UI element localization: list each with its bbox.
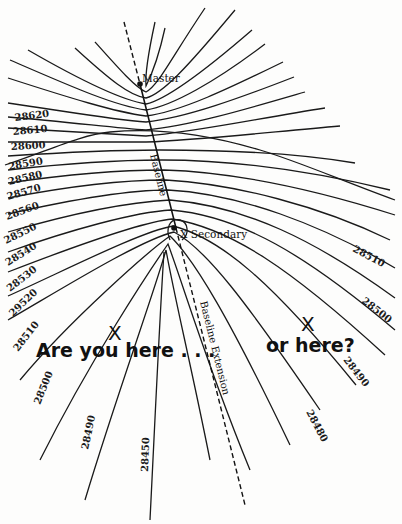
svg-text:28610: 28610 xyxy=(12,123,48,137)
svg-text:28500: 28500 xyxy=(32,369,55,405)
svg-text:28450: 28450 xyxy=(139,437,151,472)
svg-text:28560: 28560 xyxy=(4,200,40,222)
secondary-label: X Secondary xyxy=(180,228,247,240)
position-b-marker: X xyxy=(301,312,315,336)
svg-text:28480: 28480 xyxy=(304,408,330,444)
svg-text:28500: 28500 xyxy=(360,295,394,325)
position-b-text: or here? xyxy=(266,334,355,356)
position-a-text: Are you here . . . xyxy=(36,339,215,361)
svg-text:28490: 28490 xyxy=(79,414,97,450)
svg-text:28490: 28490 xyxy=(341,354,371,388)
middle-fan-lines xyxy=(8,150,395,410)
secondary-station-icon xyxy=(171,225,177,231)
bottom-lop-labels: 28500 28490 28450 xyxy=(32,369,152,472)
secondary-fan-lines xyxy=(20,236,290,520)
left-lop-labels: 28620 28610 28600 28590 28580 28570 2856… xyxy=(2,108,50,353)
svg-text:28600: 28600 xyxy=(11,139,46,152)
master-label: Master xyxy=(142,72,181,84)
baseline-extension-upper xyxy=(124,22,140,84)
svg-text:28510: 28510 xyxy=(351,243,387,269)
loran-diagram: Master X Secondary Baseline Baseline Ext… xyxy=(0,0,402,524)
hyperbola-chart: Master X Secondary Baseline Baseline Ext… xyxy=(0,0,402,524)
crossing-curve xyxy=(5,131,395,200)
